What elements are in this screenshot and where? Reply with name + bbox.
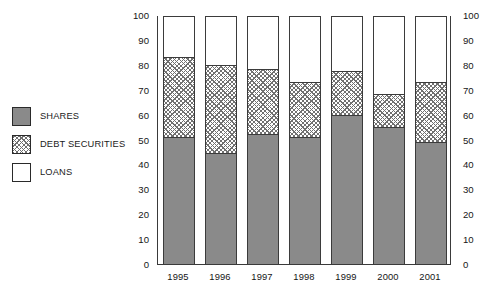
bar-1997[interactable] bbox=[247, 16, 279, 265]
plot-area bbox=[157, 16, 451, 265]
legend-label-loans: LOANS bbox=[40, 167, 72, 177]
y-tick-right-80: 80 bbox=[463, 61, 474, 71]
x-axis-line bbox=[157, 264, 451, 265]
stacked-bar-chart: SHARES DEBT SECURITIES LOANS 10090807060… bbox=[0, 0, 490, 294]
x-tick-2001: 2001 bbox=[409, 271, 451, 282]
y-tick-right-70: 70 bbox=[463, 86, 474, 96]
bar-segment-1995-loans bbox=[164, 17, 194, 57]
bar-segment-1996-shares bbox=[206, 153, 236, 264]
bar-1995[interactable] bbox=[163, 16, 195, 265]
y-tick-left-20: 20 bbox=[138, 210, 149, 220]
x-tick-1999: 1999 bbox=[325, 271, 367, 282]
bar-segment-1999-shares bbox=[332, 115, 362, 264]
legend-label-shares: SHARES bbox=[40, 111, 79, 121]
bar-segment-2000-shares bbox=[374, 127, 404, 264]
bar-segment-1999-loans bbox=[332, 17, 362, 71]
empty-white-swatch-icon bbox=[12, 163, 31, 182]
bar-segment-1998-loans bbox=[290, 17, 320, 82]
bar-segment-1998-shares bbox=[290, 137, 320, 264]
bar-segment-1995-shares bbox=[164, 137, 194, 264]
x-tick-1997: 1997 bbox=[241, 271, 283, 282]
y-tick-left-100: 100 bbox=[133, 11, 149, 21]
bar-segment-1998-debt-securities bbox=[290, 82, 320, 136]
y-tick-left-80: 80 bbox=[138, 61, 149, 71]
x-tick-1998: 1998 bbox=[283, 271, 325, 282]
bar-2000[interactable] bbox=[373, 16, 405, 265]
y-tick-left-10: 10 bbox=[138, 235, 149, 245]
bar-segment-2001-shares bbox=[416, 142, 446, 264]
bar-segment-1996-debt-securities bbox=[206, 65, 236, 153]
bar-segment-1997-loans bbox=[248, 17, 278, 69]
chart-legend: SHARES DEBT SECURITIES LOANS bbox=[12, 104, 140, 188]
legend-item-debt-securities: DEBT SECURITIES bbox=[12, 132, 140, 156]
crosshatch-swatch-icon bbox=[12, 135, 31, 154]
bar-segment-1995-debt-securities bbox=[164, 57, 194, 137]
y-tick-right-40: 40 bbox=[463, 160, 474, 170]
bar-segment-1997-shares bbox=[248, 134, 278, 264]
y-tick-right-0: 0 bbox=[463, 260, 468, 270]
bar-1998[interactable] bbox=[289, 16, 321, 265]
bar-1996[interactable] bbox=[205, 16, 237, 265]
y-tick-right-100: 100 bbox=[463, 11, 479, 21]
bar-segment-1999-debt-securities bbox=[332, 71, 362, 114]
x-tick-2000: 2000 bbox=[367, 271, 409, 282]
bar-segment-1997-debt-securities bbox=[248, 69, 278, 134]
bar-1999[interactable] bbox=[331, 16, 363, 265]
y-tick-right-50: 50 bbox=[463, 136, 474, 146]
y-tick-left-90: 90 bbox=[138, 36, 149, 46]
bar-segment-1996-loans bbox=[206, 17, 236, 65]
bar-segment-2000-debt-securities bbox=[374, 94, 404, 127]
y-tick-right-90: 90 bbox=[463, 36, 474, 46]
y-tick-right-30: 30 bbox=[463, 185, 474, 195]
x-tick-1995: 1995 bbox=[157, 271, 199, 282]
legend-item-shares: SHARES bbox=[12, 104, 140, 128]
legend-item-loans: LOANS bbox=[12, 160, 140, 184]
y-tick-right-60: 60 bbox=[463, 111, 474, 121]
x-tick-1996: 1996 bbox=[199, 271, 241, 282]
y-tick-right-10: 10 bbox=[463, 235, 474, 245]
solid-gray-swatch-icon bbox=[12, 107, 31, 126]
y-tick-right-20: 20 bbox=[463, 210, 474, 220]
bar-segment-2000-loans bbox=[374, 17, 404, 94]
y-tick-left-70: 70 bbox=[138, 86, 149, 96]
bar-segment-2001-debt-securities bbox=[416, 82, 446, 141]
legend-label-debt-securities: DEBT SECURITIES bbox=[40, 139, 125, 149]
bar-2001[interactable] bbox=[415, 16, 447, 265]
y-tick-left-0: 0 bbox=[144, 260, 149, 270]
bar-segment-2001-loans bbox=[416, 17, 446, 82]
